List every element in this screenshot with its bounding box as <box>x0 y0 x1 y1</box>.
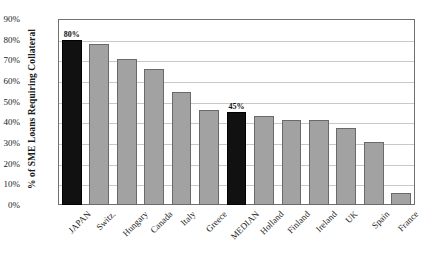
bar-chart: % of SME Loans Requiring Collateral 90%8… <box>0 0 441 273</box>
x-label-slot: UK <box>333 205 360 273</box>
x-label-slot: Ireland <box>305 205 332 273</box>
x-label-slot: Greece <box>195 205 222 273</box>
x-axis-tick-label: France <box>396 209 420 233</box>
x-label-slot: Holland <box>250 205 277 273</box>
y-axis-tick-label: 10% <box>0 179 20 189</box>
bar-slot <box>333 19 360 205</box>
x-label-slot: Spain <box>360 205 387 273</box>
bar-value-label: 80% <box>64 30 80 39</box>
bar-slot <box>388 19 415 205</box>
bar-spain[interactable] <box>364 142 384 205</box>
x-axis-tick-label: UK <box>344 209 360 225</box>
bar-slot <box>360 19 387 205</box>
bar-median[interactable]: 45% <box>227 112 247 205</box>
y-axis-tick-label: 80% <box>0 35 20 45</box>
x-axis-tick-label: Italy <box>178 209 197 228</box>
bar-switz[interactable] <box>89 44 109 205</box>
y-axis-tick-label: 30% <box>0 138 20 148</box>
bar-slot <box>305 19 332 205</box>
bar-slot <box>278 19 305 205</box>
x-label-slot: MEDIAN <box>223 205 250 273</box>
bar-slot: 45% <box>223 19 250 205</box>
bar-greece[interactable] <box>199 110 219 205</box>
bar-ireland[interactable] <box>309 120 329 205</box>
x-label-slot: Italy <box>168 205 195 273</box>
y-axis-tick-label: 60% <box>0 76 20 86</box>
y-axis-tick-label: 40% <box>0 117 20 127</box>
x-label-slot: France <box>388 205 415 273</box>
bar-italy[interactable] <box>172 92 192 205</box>
y-axis-tick-label: 0% <box>0 200 20 210</box>
bar-finland[interactable] <box>282 120 302 205</box>
bar-slot <box>195 19 222 205</box>
bar-slot <box>168 19 195 205</box>
x-axis-tick-labels: JAPANSwitz.HungaryCanadaItalyGreeceMEDIA… <box>58 205 415 273</box>
bar-slot <box>140 19 167 205</box>
y-axis-tick-label: 50% <box>0 97 20 107</box>
bar-japan[interactable]: 80% <box>62 40 82 205</box>
x-label-slot: Hungary <box>113 205 140 273</box>
x-label-slot: Switz. <box>85 205 112 273</box>
x-label-slot: Canada <box>140 205 167 273</box>
bar-slot <box>85 19 112 205</box>
bar-france[interactable] <box>391 193 411 205</box>
bar-slot <box>113 19 140 205</box>
y-axis-tick-label: 70% <box>0 55 20 65</box>
bars-layer: 80%45% <box>58 19 415 205</box>
y-axis-tick-label: 20% <box>0 159 20 169</box>
bar-hungary[interactable] <box>117 59 137 205</box>
bar-uk[interactable] <box>336 128 356 206</box>
y-axis-tick-label: 90% <box>0 14 20 24</box>
y-axis-title: % of SME Loans Requiring Collateral <box>27 13 37 205</box>
bar-canada[interactable] <box>144 69 164 205</box>
bar-holland[interactable] <box>254 116 274 205</box>
x-label-slot: JAPAN <box>58 205 85 273</box>
bar-slot: 80% <box>58 19 85 205</box>
bar-value-label: 45% <box>228 102 244 111</box>
bar-slot <box>250 19 277 205</box>
x-label-slot: Finland <box>278 205 305 273</box>
